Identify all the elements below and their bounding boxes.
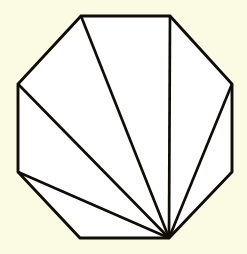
figure-canvas — [0, 0, 247, 254]
diagonal-to-top-right — [169, 16, 170, 238]
octagon-diagram-svg — [0, 0, 247, 254]
